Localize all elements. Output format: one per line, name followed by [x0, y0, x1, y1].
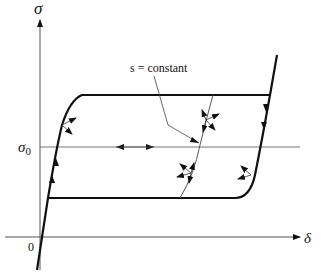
- s-constant-label: s = constant: [130, 61, 188, 75]
- stress-displacement-diagram: σ δ 0 σ0 s = constant: [0, 0, 321, 274]
- unloading-branch: [48, 55, 277, 198]
- direction-arrows: [49, 104, 269, 183]
- sigma-axis-label: σ: [34, 0, 43, 18]
- delta-axis-label: δ: [304, 230, 312, 246]
- sigma0-label: σ0: [18, 139, 31, 157]
- annotation-leaders: [154, 76, 199, 143]
- constant-s-curve: [180, 95, 213, 198]
- axes: [5, 20, 300, 270]
- flow-fans: [62, 110, 251, 183]
- origin-label: 0: [28, 240, 34, 254]
- loading-branch: [37, 95, 270, 270]
- leader-arrowhead: [190, 137, 199, 143]
